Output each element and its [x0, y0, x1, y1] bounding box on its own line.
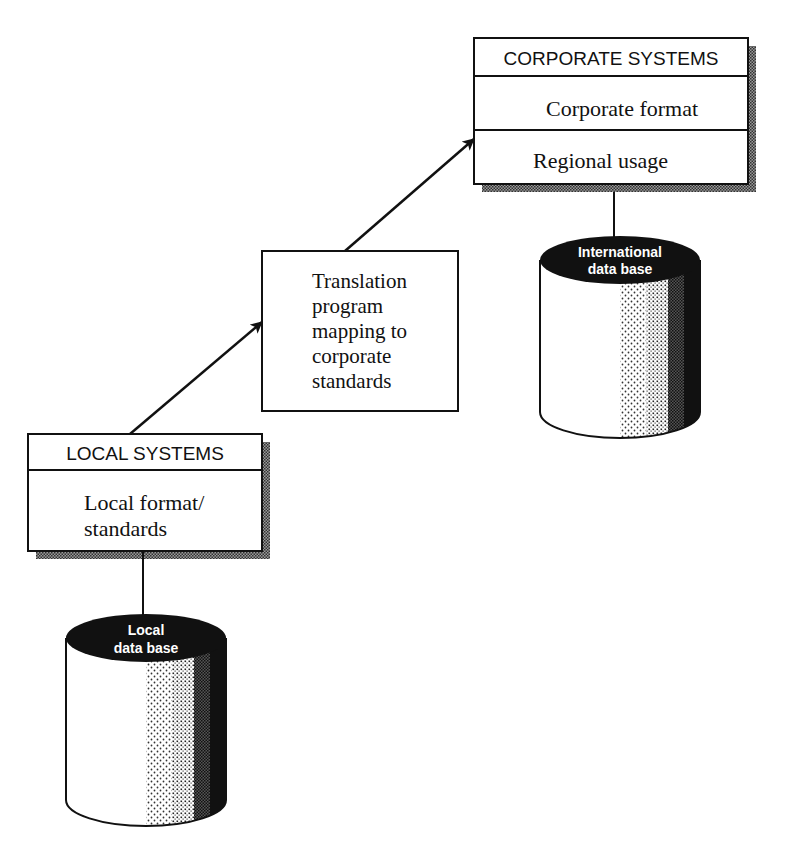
international-db-label-line1: International: [578, 244, 662, 260]
local-database-cylinder: Local data base: [66, 614, 226, 838]
arrow-translation-to-corporate: [345, 139, 474, 251]
international-database-cylinder: International data base: [540, 236, 700, 450]
corporate-systems-header: CORPORATE SYSTEMS: [503, 48, 718, 69]
local-format-label-line2: standards: [84, 516, 167, 541]
translation-program-box: Translation program mapping to corporate…: [262, 251, 458, 411]
local-systems-header: LOCAL SYSTEMS: [66, 443, 224, 464]
international-db-label-line2: data base: [588, 261, 653, 277]
regional-usage-label: Regional usage: [533, 148, 668, 173]
translation-line-5: standards: [312, 369, 391, 393]
local-systems-box: LOCAL SYSTEMS Local format/ standards: [28, 434, 270, 559]
local-format-label-line1: Local format/: [84, 490, 205, 515]
translation-line-3: mapping to: [312, 319, 407, 343]
corporate-format-label: Corporate format: [546, 96, 698, 121]
local-db-label-line1: Local: [128, 622, 165, 638]
translation-line-1: Translation: [312, 269, 407, 293]
translation-line-2: program: [312, 294, 383, 318]
local-db-label-line2: data base: [114, 640, 179, 656]
translation-line-4: corporate: [312, 344, 391, 368]
arrow-local-to-translation: [130, 322, 262, 434]
diagram-canvas: CORPORATE SYSTEMS Corporate format Regio…: [0, 0, 790, 844]
corporate-systems-box: CORPORATE SYSTEMS Corporate format Regio…: [474, 38, 756, 192]
